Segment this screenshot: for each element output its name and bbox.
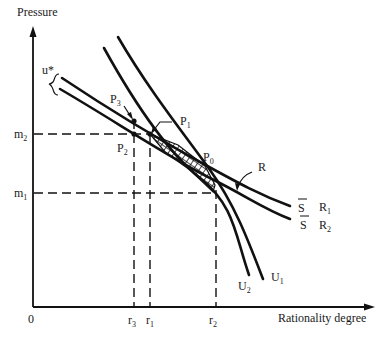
diagram-canvas: Pressure Rationality degree 0 m2 m1 r3 r…: [0, 0, 385, 340]
P2-label: P2: [117, 141, 128, 157]
r1-label: r1: [146, 313, 154, 329]
origin-label: 0: [28, 312, 34, 326]
curve-R1: [62, 78, 290, 206]
y-axis-label: Pressure: [17, 5, 58, 19]
u-star-label: u*: [42, 63, 54, 77]
rationality-pressure-diagram: Pressure Rationality degree 0 m2 m1 r3 r…: [0, 0, 385, 340]
P0-label: P0: [203, 150, 214, 166]
R1-marker: S: [298, 201, 305, 215]
point-P2: [131, 131, 136, 136]
x-axis-label: Rationality degree: [278, 311, 366, 325]
r3-label: r3: [128, 313, 136, 329]
y-axis: [30, 26, 37, 307]
point-P3: [131, 118, 136, 123]
R2-marker: S: [300, 218, 307, 232]
m2-label: m2: [14, 127, 27, 143]
R2-label-group: S R2: [300, 216, 331, 234]
R1-label-group: S R1: [298, 199, 331, 216]
m1-label: m1: [14, 186, 27, 202]
P3-label: P3: [110, 92, 121, 108]
U1-label: U1: [271, 270, 284, 286]
R-arrow-icon: [235, 183, 240, 191]
r2-label: r2: [209, 313, 217, 329]
y-axis-arrow-icon: [30, 26, 37, 37]
R-label: R: [258, 160, 266, 174]
u-star-brace-icon: [49, 74, 59, 95]
U2-label: U2: [238, 279, 251, 295]
R1-label: R1: [319, 200, 331, 216]
x-axis-arrow-icon: [364, 304, 375, 311]
curve-U2: [104, 48, 249, 275]
x-axis: [33, 304, 375, 311]
R2-label: R2: [319, 218, 331, 234]
P1-label: P1: [180, 114, 191, 130]
